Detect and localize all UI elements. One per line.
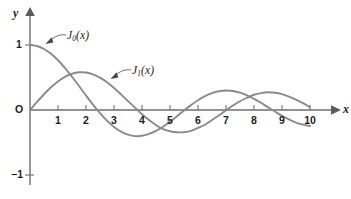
y-axis-label: y (13, 6, 18, 21)
curve-label-j0: J0(x) (67, 29, 89, 41)
bessel-function-figure: y x O 1 −1 1 2 3 4 5 6 7 8 9 10 J0(x) J1… (0, 0, 351, 199)
x-tick-label-6: 6 (191, 114, 205, 126)
x-tick-label-7: 7 (219, 114, 233, 126)
plot-canvas (0, 0, 351, 199)
j0-annotation-leader (46, 35, 67, 44)
x-tick-label-5: 5 (163, 114, 177, 126)
x-tick-label-1: 1 (51, 114, 65, 126)
x-axis-label: x (343, 102, 349, 117)
y-axis-arrow-icon (25, 7, 35, 16)
curve-label-j1-sub: 1 (137, 69, 141, 78)
x-tick-label-9: 9 (275, 114, 289, 126)
curve-label-j0-arg: (x) (76, 29, 89, 41)
j1-annotation-leader (111, 70, 132, 79)
x-tick-label-8: 8 (247, 114, 261, 126)
curve-label-j1-arg: (x) (141, 64, 154, 76)
x-tick-label-3: 3 (107, 114, 121, 126)
curve-label-j1: J1(x) (132, 64, 154, 76)
origin-label: O (12, 103, 26, 115)
y-tick-label-neg1: −1 (8, 168, 26, 180)
y-tick-label-1: 1 (12, 38, 26, 50)
x-axis-arrow-icon (331, 105, 341, 115)
x-tick-label-4: 4 (135, 114, 149, 126)
x-tick-label-2: 2 (79, 114, 93, 126)
curve-label-j0-sub: 0 (72, 34, 76, 43)
x-tick-label-10: 10 (301, 114, 319, 126)
